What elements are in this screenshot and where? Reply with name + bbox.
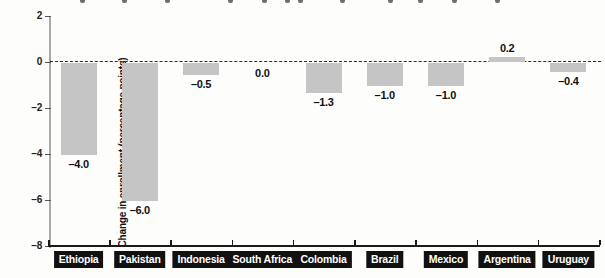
x-axis-tick bbox=[477, 240, 479, 245]
bar bbox=[122, 63, 158, 201]
cropped-title-fragment bbox=[122, 0, 127, 3]
x-axis-line bbox=[48, 245, 600, 247]
category-label: Ethiopia bbox=[54, 251, 104, 268]
x-axis-tick bbox=[415, 240, 417, 245]
x-axis-tick bbox=[109, 240, 111, 245]
x-axis-tick bbox=[293, 240, 295, 245]
y-tick-label: 0 bbox=[12, 56, 42, 67]
category-label: South Africa bbox=[227, 251, 297, 268]
bar-value-label: –1.0 bbox=[360, 89, 410, 101]
cropped-title-fragment bbox=[452, 0, 457, 3]
category-label: Argentina bbox=[479, 251, 536, 268]
cropped-title-fragment bbox=[285, 0, 290, 3]
bar bbox=[550, 63, 586, 72]
category-label: Pakistan bbox=[114, 251, 166, 268]
y-tick-label: –4 bbox=[12, 148, 42, 159]
bar bbox=[306, 63, 342, 93]
y-tick-mark bbox=[45, 16, 51, 18]
y-tick-mark bbox=[45, 108, 51, 110]
category-label: Uruguay bbox=[543, 251, 594, 268]
y-tick-mark bbox=[45, 200, 51, 202]
bar bbox=[489, 57, 525, 62]
bar bbox=[428, 63, 464, 86]
x-axis-tick bbox=[170, 240, 172, 245]
bar bbox=[183, 63, 219, 75]
cropped-title-fragment bbox=[418, 0, 423, 3]
cropped-title-fragment bbox=[298, 0, 303, 3]
y-tick-label: –6 bbox=[12, 194, 42, 205]
cropped-title-fragment bbox=[340, 0, 345, 3]
x-axis-tick bbox=[354, 240, 356, 245]
bar-value-label: –0.4 bbox=[543, 75, 593, 87]
y-tick-label: 2 bbox=[12, 10, 42, 21]
x-axis-tick bbox=[538, 240, 540, 245]
bar-value-label: –4.0 bbox=[54, 158, 104, 170]
cropped-title-fragment bbox=[228, 0, 233, 3]
bar-value-label: –1.3 bbox=[299, 96, 349, 108]
x-axis-tick bbox=[232, 240, 234, 245]
category-label: Brazil bbox=[366, 251, 403, 268]
bar-chart-figure: Change in enrollment (percentage points)… bbox=[0, 0, 605, 278]
cropped-title-fragment bbox=[495, 0, 500, 3]
cropped-title-fragment bbox=[388, 0, 393, 3]
bar-value-label: 0.2 bbox=[482, 42, 532, 54]
bar-value-label: –1.0 bbox=[421, 89, 471, 101]
bar bbox=[367, 63, 403, 86]
cropped-title-fragment bbox=[165, 0, 170, 3]
category-label: Colombia bbox=[295, 251, 351, 268]
cropped-title-fragment bbox=[80, 0, 85, 3]
category-label: Indonesia bbox=[172, 251, 229, 268]
bar-value-label: 0.0 bbox=[237, 67, 287, 79]
category-label: Mexico bbox=[424, 251, 468, 268]
cropped-title-fragment bbox=[262, 0, 267, 3]
x-axis-tick bbox=[599, 240, 601, 245]
bar-value-label: –6.0 bbox=[115, 204, 165, 216]
y-tick-label: –8 bbox=[12, 240, 42, 251]
y-tick-label: –2 bbox=[12, 102, 42, 113]
bar-value-label: –0.5 bbox=[176, 78, 226, 90]
bar bbox=[61, 63, 97, 155]
x-axis-tick bbox=[48, 240, 50, 245]
y-tick-mark bbox=[45, 154, 51, 156]
y-axis-line bbox=[49, 16, 51, 248]
